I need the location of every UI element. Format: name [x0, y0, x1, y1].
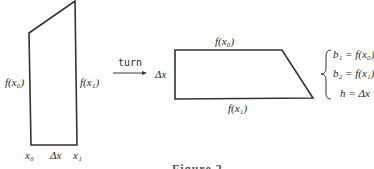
- upright-trapezoid: [29, 1, 77, 145]
- top-label: f(x₀): [215, 36, 234, 47]
- turn-arrow-head: [142, 71, 147, 75]
- height-label: Δx: [155, 69, 166, 80]
- bottom-label: f(x₁): [228, 103, 247, 114]
- diagram-canvas: [0, 0, 374, 169]
- right-side-label: f(x₁): [80, 77, 99, 88]
- brace-icon: [321, 50, 331, 99]
- figure-caption: Figure 2: [172, 162, 223, 169]
- bottom-label-x1: x₁: [73, 150, 82, 161]
- turn-label: turn: [118, 58, 142, 68]
- equation-b2: b₂ = f(x₁): [333, 68, 374, 79]
- bottom-label-x0: x₀: [25, 150, 34, 161]
- equation-b1: b₁ = f(x₀): [333, 49, 374, 60]
- left-side-label: f(x₀): [5, 77, 24, 88]
- bottom-label-dx: Δx: [50, 150, 61, 161]
- equation-h: h = Δx: [340, 88, 370, 99]
- rotated-trapezoid: [175, 50, 313, 99]
